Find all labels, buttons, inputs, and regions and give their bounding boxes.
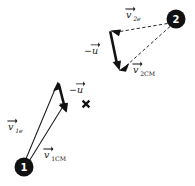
vector-diagram-figure: 2 1 v 1e xyxy=(0,0,195,186)
figure-background xyxy=(0,0,195,186)
particle-2-node: 2 xyxy=(167,10,186,29)
label-minus-u-lower: −u xyxy=(69,81,85,95)
label-v1e-base: v xyxy=(8,121,14,132)
label-minus-u-lower-base: −u xyxy=(69,84,83,95)
particle-1-node: 1 xyxy=(15,158,34,177)
label-v1cm-base: v xyxy=(44,149,50,160)
label-v2e-base: v xyxy=(126,9,132,20)
vector-diagram-canvas: 2 1 v 1e xyxy=(0,0,195,186)
label-v2cm-base: v xyxy=(133,64,139,75)
particle-2-label: 2 xyxy=(173,14,180,25)
label-minus-u-upper-base: −u xyxy=(84,45,98,56)
label-v1e-subscript: 1e xyxy=(15,127,23,134)
label-minus-u-upper: −u xyxy=(84,42,100,56)
label-v2cm-subscript: 2CM xyxy=(140,70,156,77)
label-v2e-subscript: 2e xyxy=(132,15,141,22)
label-v1cm-subscript: 1CM xyxy=(51,155,67,162)
particle-1-label: 1 xyxy=(21,162,28,173)
